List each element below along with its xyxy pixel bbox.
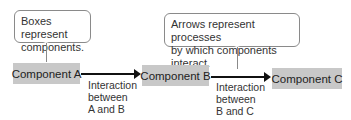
interaction-b-c-label: Interaction between B and C bbox=[216, 81, 265, 117]
callout-boxes-pointer bbox=[46, 43, 47, 62]
interaction-a-b-line2: between bbox=[88, 91, 137, 103]
callout-arrows-pointer bbox=[237, 47, 238, 69]
interaction-a-b-label: Interaction between A and B bbox=[88, 79, 137, 115]
callout-boxes-line1: Boxes represent bbox=[21, 15, 84, 41]
component-c-label: Component C bbox=[272, 73, 343, 85]
interaction-b-c-line1: Interaction bbox=[216, 81, 265, 93]
callout-arrows-line1: Arrows represent processes bbox=[171, 18, 293, 44]
arrow-a-to-b bbox=[81, 73, 139, 75]
interaction-a-b-line1: Interaction bbox=[88, 79, 137, 91]
callout-boxes: Boxes represent components. bbox=[14, 10, 91, 43]
interaction-b-c-line2: between bbox=[216, 93, 265, 105]
callout-arrows: Arrows represent processes by which comp… bbox=[164, 13, 300, 47]
component-b-label: Component B bbox=[140, 70, 210, 82]
component-b-box: Component B bbox=[142, 65, 209, 86]
interaction-b-c-line3: B and C bbox=[216, 105, 265, 117]
component-a-box: Component A bbox=[13, 63, 80, 84]
component-c-box: Component C bbox=[272, 68, 342, 89]
interaction-a-b-line3: A and B bbox=[88, 103, 137, 115]
arrow-b-to-c bbox=[211, 76, 269, 78]
component-a-label: Component A bbox=[12, 68, 82, 80]
callout-boxes-line2: components. bbox=[21, 41, 84, 54]
